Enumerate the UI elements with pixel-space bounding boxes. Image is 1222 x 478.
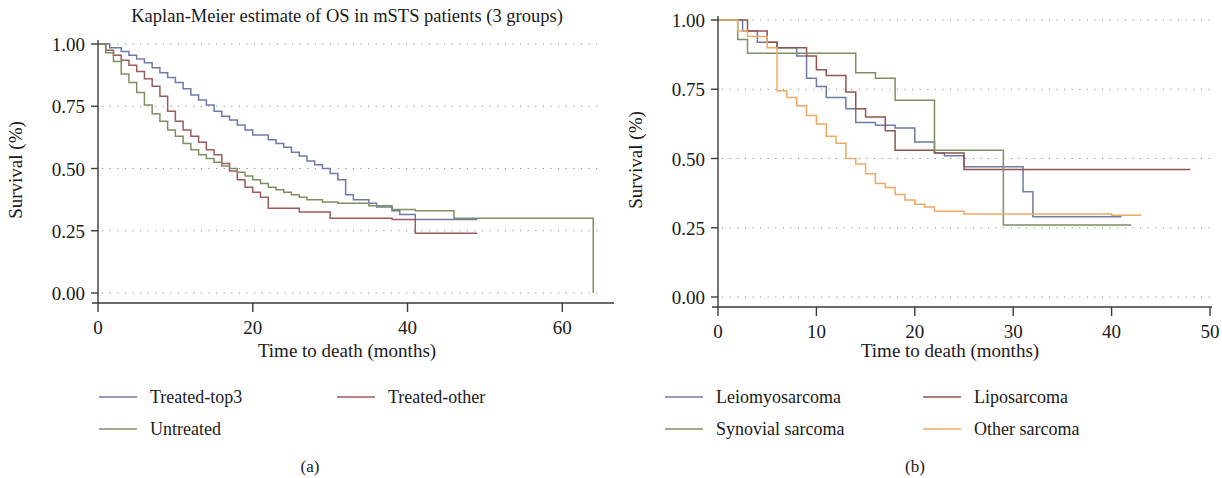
panel-a-legend: Treated-top3 Treated-other Untreated (99, 387, 485, 439)
x-tick-label: 10 (807, 321, 826, 342)
panel-b-legend: Leiomyosarcoma Liposarcoma Synovial sarc… (665, 387, 1079, 439)
kaplan-meier-figure: 0.000.250.500.751.000204060 Kaplan-Meier… (0, 0, 1222, 478)
x-tick-label: 0 (713, 321, 723, 342)
y-tick-label: 0.00 (52, 283, 85, 304)
panel-a-axis-labels: 0.000.250.500.751.000204060 (52, 34, 572, 338)
y-tick-label: 0.50 (672, 149, 705, 170)
x-tick-label: 50 (1201, 321, 1220, 342)
y-tick-label: 0.75 (672, 79, 705, 100)
survival-curve (718, 20, 1131, 225)
x-tick-label: 40 (398, 317, 417, 338)
survival-curve (98, 44, 477, 233)
y-tick-label: 0.75 (52, 96, 85, 117)
x-tick-label: 40 (1102, 321, 1121, 342)
legend-label-untreated: Untreated (150, 419, 221, 439)
legend-label-treated-other: Treated-other (388, 387, 485, 407)
panel-b-axes (711, 16, 1212, 316)
panel-b: 0.000.250.500.751.0001020304050 Time to … (620, 0, 1222, 478)
panel-a-svg: 0.000.250.500.751.000204060 Kaplan-Meier… (0, 0, 620, 478)
x-tick-label: 20 (905, 321, 924, 342)
legend-label-other-sarcoma: Other sarcoma (974, 419, 1079, 439)
panel-a-axes (91, 40, 614, 312)
survival-curve (718, 20, 1141, 215)
panel-b-svg: 0.000.250.500.751.0001020304050 Time to … (620, 0, 1222, 478)
x-tick-label: 60 (553, 317, 572, 338)
x-tick-label: 0 (93, 317, 103, 338)
y-tick-label: 0.50 (52, 159, 85, 180)
legend-label-treated-top3: Treated-top3 (150, 387, 242, 407)
y-tick-label: 1.00 (672, 10, 705, 31)
survival-curve (718, 20, 1121, 217)
panel-a-gridlines (102, 44, 601, 293)
y-tick-label: 1.00 (52, 34, 85, 55)
y-tick-label: 0.00 (672, 287, 705, 308)
panel-b-curves (718, 20, 1190, 225)
panel-a: 0.000.250.500.751.000204060 Kaplan-Meier… (0, 0, 620, 478)
panel-a-x-axis-title: Time to death (months) (258, 340, 436, 362)
panel-b-gridlines (722, 20, 1212, 297)
panel-b-x-axis-title: Time to death (months) (861, 340, 1039, 362)
survival-curve (718, 20, 1190, 170)
x-tick-label: 20 (243, 317, 262, 338)
y-tick-label: 0.25 (52, 221, 85, 242)
panel-b-caption: (b) (905, 457, 925, 476)
panel-a-y-axis-title: Survival (%) (5, 121, 27, 219)
panel-a-caption: (a) (301, 457, 320, 476)
legend-label-leiomyosarcoma: Leiomyosarcoma (716, 387, 841, 407)
survival-curve (98, 44, 477, 220)
panel-b-axis-labels: 0.000.250.500.751.0001020304050 (672, 10, 1220, 342)
legend-label-synovial-sarcoma: Synovial sarcoma (716, 419, 844, 439)
panel-b-y-axis-title: Survival (%) (625, 111, 647, 209)
panel-a-title: Kaplan-Meier estimate of OS in mSTS pati… (131, 6, 563, 27)
legend-label-liposarcoma: Liposarcoma (974, 387, 1068, 407)
x-tick-label: 30 (1004, 321, 1023, 342)
y-tick-label: 0.25 (672, 218, 705, 239)
